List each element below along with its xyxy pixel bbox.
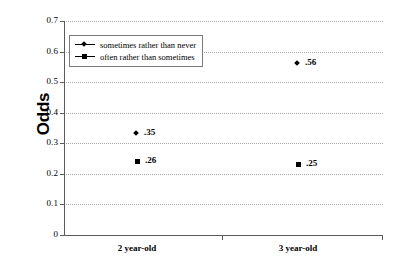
y-tick-0.4 xyxy=(60,113,64,114)
y-tick-0.5 xyxy=(60,82,64,83)
x-tick-label-2-year-old: 2 year-old xyxy=(97,243,177,254)
legend-label: often rather than sometimes xyxy=(100,52,195,62)
data-point-label: .56 xyxy=(305,57,316,68)
odds-scatter-chart: 0.7 0.6 0.5 0.4 0.3 0.2 0.1 0 Odds 2 yea… xyxy=(0,0,406,275)
gridline-0.4 xyxy=(64,113,383,114)
y-tick-0.2 xyxy=(60,174,64,175)
y-tick-0.3 xyxy=(60,143,64,144)
x-tick-label-3-year-old: 3 year-old xyxy=(258,243,338,254)
legend-label: sometimes rather than never xyxy=(100,40,196,50)
gridline-0.5 xyxy=(64,82,383,83)
legend: sometimes rather than never often rather… xyxy=(69,35,203,67)
y-tick-label-0.1: 0.1 xyxy=(46,199,58,208)
diamond-marker-icon xyxy=(81,41,87,47)
y-tick-0 xyxy=(60,235,64,236)
x-tick-mid xyxy=(222,235,223,240)
y-tick-0.1 xyxy=(60,204,64,205)
y-tick-0.6 xyxy=(60,52,64,53)
legend-entry-sometimes[interactable]: sometimes rather than never xyxy=(74,39,196,51)
square-marker-icon xyxy=(82,54,87,59)
legend-entry-often[interactable]: often rather than sometimes xyxy=(74,51,196,63)
y-axis-title: Odds xyxy=(34,84,54,144)
gridline-0.2 xyxy=(64,174,383,175)
data-point-label: .26 xyxy=(145,155,156,166)
gridline-0.1 xyxy=(64,204,383,205)
y-tick-label-0.6: 0.6 xyxy=(46,47,58,56)
legend-key-diamond xyxy=(74,39,96,51)
y-tick-0.7 xyxy=(60,21,64,22)
y-tick-label-0: 0 xyxy=(53,230,58,239)
gridline-0.3 xyxy=(64,143,383,144)
y-tick-label-0.7: 0.7 xyxy=(46,16,58,25)
gridline-0.7 xyxy=(64,21,383,22)
square-marker-icon xyxy=(296,162,301,167)
x-axis-line xyxy=(64,235,383,236)
x-tick-end xyxy=(382,235,383,240)
legend-key-square xyxy=(74,51,96,63)
square-marker-icon xyxy=(135,159,140,164)
y-axis-line xyxy=(64,21,65,235)
data-point-label: .35 xyxy=(144,127,155,138)
y-tick-label-0.2: 0.2 xyxy=(46,169,58,178)
data-point-label: .25 xyxy=(306,158,317,169)
